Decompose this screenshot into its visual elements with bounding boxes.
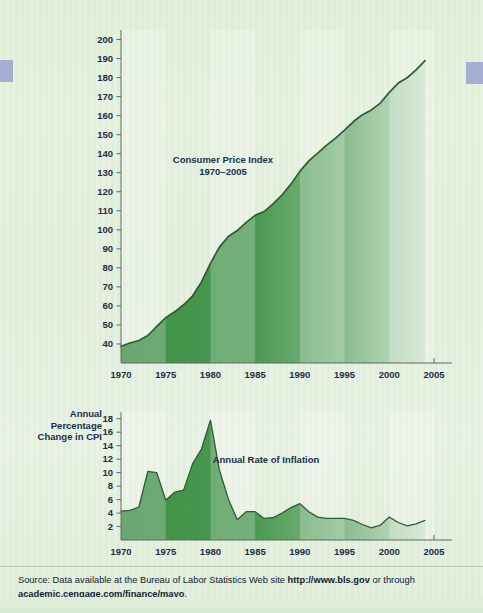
cpi-chart: Consumer Price Index 1970–2005 200190180…	[0, 8, 483, 398]
y-axis-tick-label: 12	[0, 454, 113, 464]
y-axis-tick-label: 18	[0, 414, 113, 424]
y-axis-tick-label: 6	[0, 495, 113, 505]
y-axis-tick-label: 40	[0, 339, 113, 349]
y-axis-tick-label: 50	[0, 320, 113, 330]
x-axis-tick-label: 1990	[278, 547, 322, 557]
x-axis-tick-label: 1975	[144, 370, 188, 380]
x-axis-tick-label: 2005	[412, 370, 456, 380]
x-axis-tick-label: 2000	[367, 370, 411, 380]
y-axis-tick-label: 70	[0, 282, 113, 292]
x-axis-tick-label: 2000	[367, 547, 411, 557]
x-axis-tick-label: 1970	[99, 547, 143, 557]
y-axis-tick-label: 140	[0, 149, 113, 159]
source-middle: or through	[370, 575, 415, 585]
x-axis-tick-label: 1980	[188, 370, 232, 380]
x-axis-tick-label: 1975	[144, 547, 188, 557]
y-axis-tick-label: 2	[0, 522, 113, 532]
x-axis-tick-label: 1995	[323, 547, 367, 557]
y-axis-tick-label: 170	[0, 92, 113, 102]
page-bottom-strip	[0, 597, 483, 613]
y-axis-tick-label: 80	[0, 263, 113, 273]
cpi-chart-title: Consumer Price Index 1970–2005	[133, 154, 313, 178]
x-axis-tick-label: 1970	[99, 370, 143, 380]
inflation-chart: Annual Percentage Change in CPI Annual R…	[0, 400, 483, 565]
inflation-chart-title: Annual Rate of Inflation	[186, 454, 346, 466]
y-axis-tick-label: 200	[0, 35, 113, 45]
x-axis-tick-label: 1980	[188, 547, 232, 557]
x-axis-tick-label: 1985	[233, 547, 277, 557]
x-axis-tick-label: 1985	[233, 370, 277, 380]
y-axis-tick-label: 90	[0, 244, 113, 254]
y-axis-tick-label: 16	[0, 427, 113, 437]
y-axis-tick-label: 120	[0, 187, 113, 197]
y-axis-tick-label: 180	[0, 73, 113, 83]
source-prefix: Source: Data available at the Bureau of …	[18, 575, 288, 585]
y-axis-tick-label: 150	[0, 130, 113, 140]
x-axis-tick-label: 1990	[278, 370, 322, 380]
y-axis-tick-label: 110	[0, 206, 113, 216]
y-axis-tick-label: 100	[0, 225, 113, 235]
y-axis-tick-label: 4	[0, 508, 113, 518]
y-axis-tick-label: 8	[0, 481, 113, 491]
y-axis-tick-label: 130	[0, 168, 113, 178]
x-axis-tick-label: 1995	[323, 370, 367, 380]
x-axis-tick-label: 2005	[412, 547, 456, 557]
y-axis-tick-label: 190	[0, 54, 113, 64]
y-axis-tick-label: 10	[0, 468, 113, 478]
source-link-bls[interactable]: http://www.bls.gov	[288, 575, 370, 585]
y-axis-tick-label: 14	[0, 441, 113, 451]
y-axis-tick-label: 60	[0, 301, 113, 311]
y-axis-tick-label: 160	[0, 111, 113, 121]
